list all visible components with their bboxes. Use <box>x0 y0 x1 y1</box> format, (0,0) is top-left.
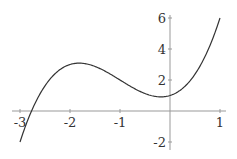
y-tick-label: -2 <box>153 135 166 150</box>
x-tick-label: -2 <box>64 115 77 130</box>
y-tick-label: 6 <box>158 11 166 26</box>
y-tick-label: 4 <box>158 42 166 57</box>
function-plot: -3-2-11642-2 <box>0 0 237 159</box>
x-tick-label: 1 <box>216 115 224 130</box>
y-tick-label: 2 <box>158 73 166 88</box>
x-tick-label: -1 <box>114 115 127 130</box>
